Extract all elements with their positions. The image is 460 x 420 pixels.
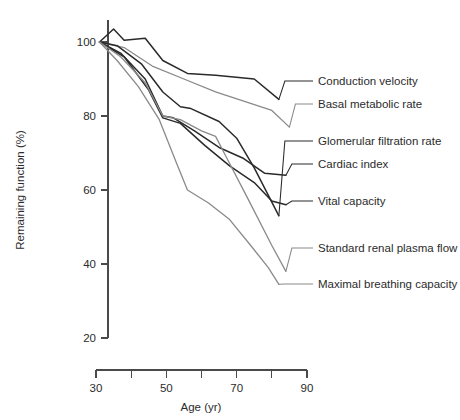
y-axis-title: Remaining function (%) — [14, 130, 26, 250]
x-tick-label: 70 — [230, 382, 243, 394]
series-label-cardiac-index: Cardiac index — [318, 158, 389, 170]
x-tick-label: 90 — [301, 382, 314, 394]
x-tick-label: 30 — [90, 382, 103, 394]
y-tick-label: 100 — [77, 36, 96, 48]
series-label-vital-capacity: Vital capacity — [318, 195, 386, 207]
x-axis-title: Age (yr) — [181, 401, 222, 413]
series-label-basal-metabolic-rate: Basal metabolic rate — [318, 98, 422, 110]
series-label-glomerular-filtration-rate: Glomerular filtration rate — [318, 135, 441, 147]
line-chart-svg: 10080604020 Remaining function (%) 30507… — [0, 0, 460, 420]
y-tick-label: 80 — [83, 110, 96, 122]
series-label-conduction-velocity: Conduction velocity — [318, 75, 418, 87]
x-tick-label: 50 — [160, 382, 173, 394]
chart-figure: 10080604020 Remaining function (%) 30507… — [0, 0, 460, 420]
y-tick-label: 60 — [83, 184, 96, 196]
chart-background — [0, 0, 460, 420]
y-tick-label: 40 — [83, 258, 96, 270]
series-label-maximal-breathing-capacity: Maximal breathing capacity — [318, 278, 458, 290]
series-label-standard-renal-plasma-flow: Standard renal plasma flow — [318, 242, 458, 254]
y-tick-label: 20 — [83, 332, 96, 344]
